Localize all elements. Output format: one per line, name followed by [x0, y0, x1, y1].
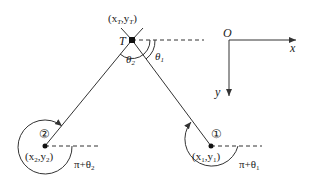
line-t-to-point2 [45, 40, 132, 146]
point2-angle-label: π+θ2 [74, 158, 95, 172]
point2-dot [43, 144, 48, 149]
target-point [129, 37, 135, 43]
y-axis-label: y [214, 85, 221, 99]
point2-coord-label: (x2,y2) [25, 150, 53, 164]
point1-dot [209, 144, 214, 149]
point2-marker: ② [39, 127, 50, 141]
point1-marker: ① [211, 127, 222, 141]
target-label: T [119, 34, 127, 48]
origin-label: O [223, 26, 232, 40]
point1-coord-label: (x1,y1) [192, 150, 220, 164]
theta1-label: θ1 [155, 50, 164, 64]
theta2-label: θ2 [126, 53, 135, 67]
line-t-to-point1 [132, 40, 211, 146]
x-axis-label: x [289, 41, 296, 55]
point1-angle-label: π+θ1 [239, 158, 260, 172]
geometry-diagram: (xT,yT) T θ2 θ1 ② (x2,y2) π+θ2 ① (x1,y1)… [0, 0, 311, 185]
target-coord-label: (xT,yT) [108, 12, 137, 26]
